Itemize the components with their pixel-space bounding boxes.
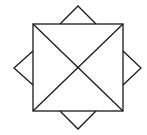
triangle-top: [60, 6, 96, 24]
triangle-left: [14, 51, 33, 85]
triangle-bottom: [60, 111, 96, 129]
triangle-right: [123, 51, 141, 85]
geometry-figure: [0, 0, 147, 135]
